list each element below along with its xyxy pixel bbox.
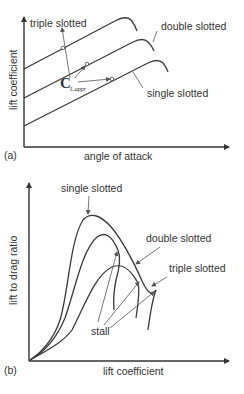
panel-a-tag: (a) <box>4 149 17 161</box>
leader-b-double-label <box>136 247 160 264</box>
leader-a-single-label <box>133 72 143 88</box>
approach-point-single <box>110 77 114 81</box>
x-axis-label-a: angle of attack <box>84 150 153 162</box>
leader-a-double-label <box>153 31 157 42</box>
panel-b-tag: (b) <box>4 364 17 376</box>
leader-b-triple-label <box>152 277 167 286</box>
curve-b-double-slotted <box>30 235 119 360</box>
label-a-double-slotted: double slotted <box>161 20 227 32</box>
curve-a-double-slotted <box>24 40 154 99</box>
x-axis-label-b: lift coefficient <box>103 365 164 377</box>
y-axis-label-b: lift to drag ratio <box>7 235 19 305</box>
cl-approach-subscript: L,appr <box>69 86 87 92</box>
label-a-single-slotted: single slotted <box>147 87 208 99</box>
flap-performance-diagram: triple slotted double slotted single slo… <box>0 0 244 394</box>
label-b-single-slotted: single slotted <box>61 182 122 194</box>
leader-b-single-label <box>88 196 89 214</box>
approach-point-triple <box>61 46 65 50</box>
label-b-triple-slotted: triple slotted <box>169 262 226 274</box>
label-b-double-slotted: double slotted <box>146 232 212 244</box>
leader-a-triple <box>62 28 70 78</box>
leader-a-double <box>75 66 85 78</box>
approach-point-double <box>85 62 89 66</box>
panel-b: single slotted double slotted triple slo… <box>4 182 229 377</box>
panel-a: triple slotted double slotted single slo… <box>4 17 229 162</box>
label-b-stall: stall <box>91 325 110 337</box>
label-a-triple-slotted: triple slotted <box>30 17 87 29</box>
leader-a-single <box>78 79 110 82</box>
y-axis-label-a: lift coefficient <box>7 49 19 110</box>
